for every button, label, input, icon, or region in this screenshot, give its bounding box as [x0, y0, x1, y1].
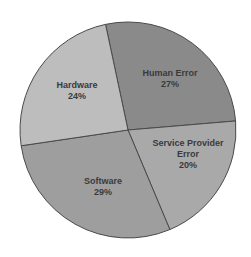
slice-label-text: Error: [152, 149, 223, 160]
slice-label-text: Hardware: [56, 80, 97, 91]
slice-label-software: Software29%: [84, 176, 122, 198]
slice-percent: 24%: [56, 91, 97, 102]
pie-chart: [0, 0, 251, 257]
slice-label-text: Service Provider: [152, 138, 223, 149]
slice-label-human-error: Human Error27%: [142, 68, 197, 90]
slice-percent: 29%: [84, 187, 122, 198]
slice-percent: 20%: [152, 160, 223, 171]
slice-label-text: Software: [84, 176, 122, 187]
slice-label-service-provider-error: Service ProviderError20%: [152, 138, 223, 171]
slice-label-text: Human Error: [142, 68, 197, 79]
slice-label-hardware: Hardware24%: [56, 80, 97, 102]
slice-percent: 27%: [142, 79, 197, 90]
